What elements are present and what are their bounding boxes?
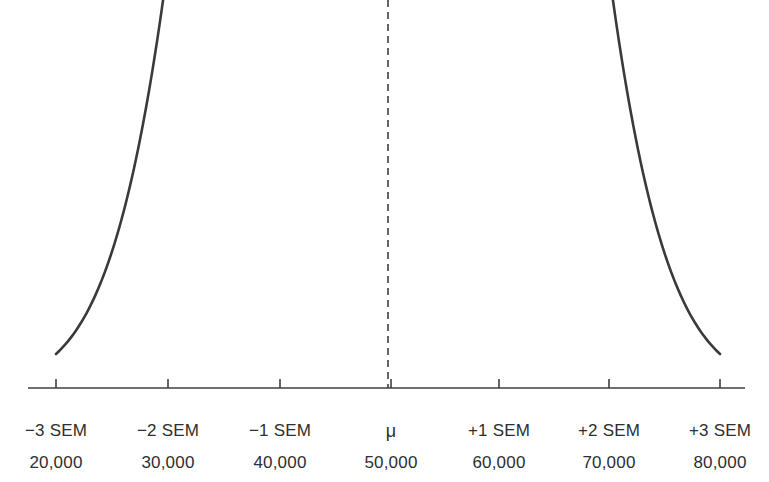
sem-label-6: +3 SEM <box>650 422 769 439</box>
distribution-figure: −3 SEM−2 SEM−1 SEMμ+1 SEM+2 SEM+3 SEM 20… <box>0 0 769 482</box>
value-label-6: 80,000 <box>650 454 769 471</box>
normal-curve-plot <box>0 0 769 482</box>
axis-group <box>28 379 745 388</box>
